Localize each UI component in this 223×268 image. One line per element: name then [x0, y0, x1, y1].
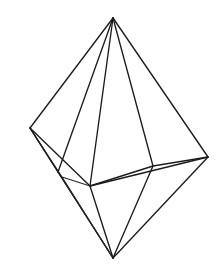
polyhedron-figure-canvas: Wireframe polyhedron line drawing Black-… [0, 0, 223, 268]
polyhedron-wireframe-svg: Wireframe polyhedron line drawing Black-… [0, 0, 223, 268]
